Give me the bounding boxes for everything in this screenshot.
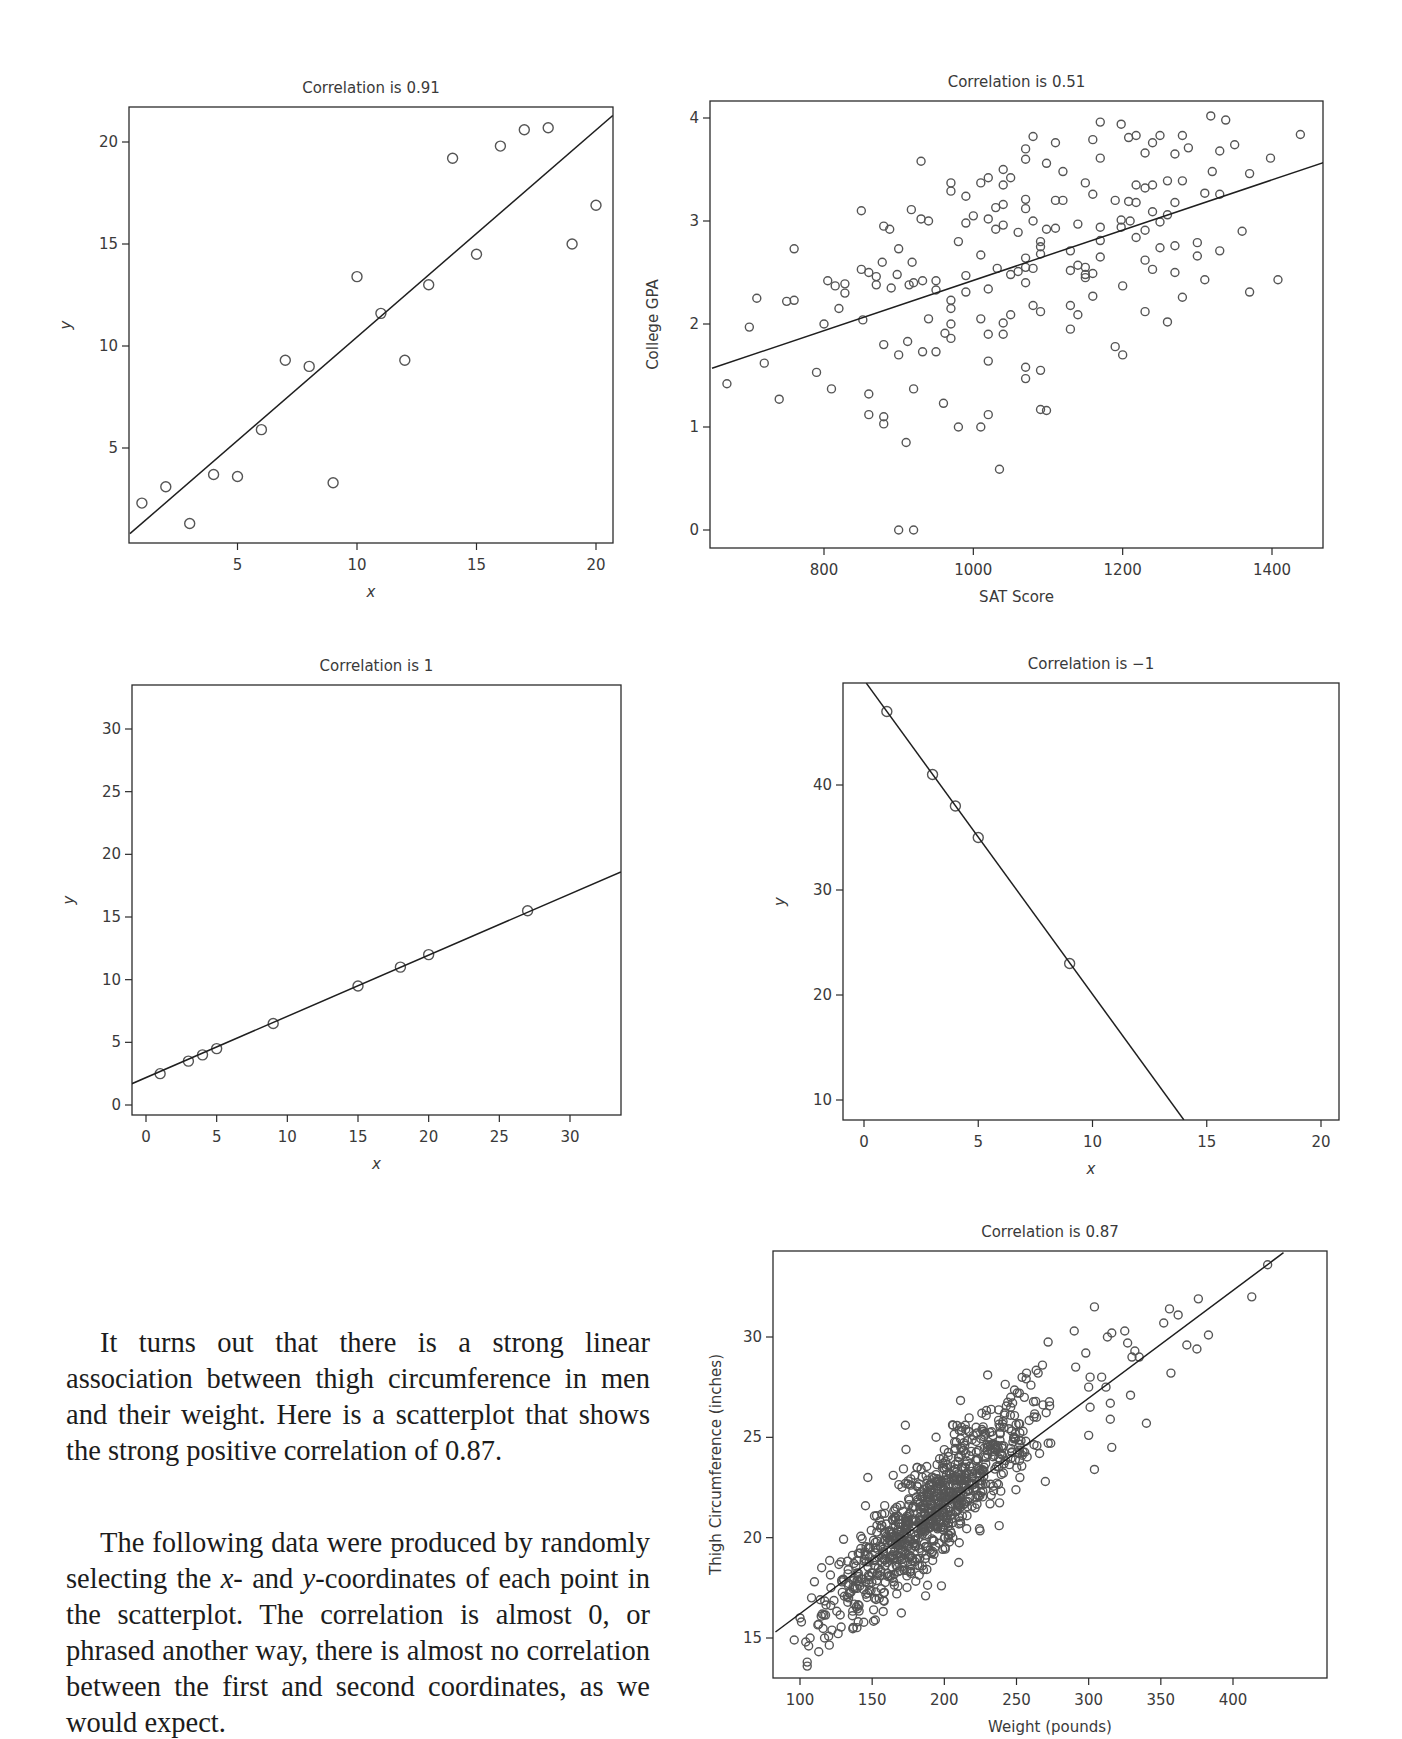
data-point — [870, 1606, 878, 1614]
x-tick-label: 25 — [490, 1128, 509, 1146]
data-point — [1001, 1380, 1009, 1388]
data-point — [1029, 217, 1037, 225]
data-point — [1086, 1373, 1094, 1381]
data-point — [1096, 154, 1104, 162]
data-point — [1066, 325, 1074, 333]
data-point — [1022, 279, 1030, 287]
data-point — [1090, 1465, 1098, 1473]
data-point — [233, 472, 243, 482]
chart-title: Correlation is 0.51 — [948, 73, 1086, 91]
data-point — [1163, 318, 1171, 326]
data-point — [1149, 208, 1157, 216]
data-point — [1029, 301, 1037, 309]
y-tick-label: 25 — [102, 783, 121, 801]
data-point — [901, 1421, 909, 1429]
data-point — [925, 315, 933, 323]
data-point — [932, 348, 940, 356]
data-point — [1082, 1349, 1090, 1357]
data-point — [947, 320, 955, 328]
data-point — [947, 187, 955, 195]
data-point — [1074, 261, 1082, 269]
y-tick-label: 5 — [111, 1033, 121, 1051]
x-tick-label: 20 — [586, 556, 605, 574]
data-point — [835, 305, 843, 313]
y-tick-label: 30 — [743, 1328, 762, 1346]
data-point — [1193, 1345, 1201, 1353]
data-point — [1014, 228, 1022, 236]
data-point — [917, 215, 925, 223]
data-point — [1086, 1403, 1094, 1411]
data-point — [1216, 147, 1224, 155]
data-point — [826, 1557, 834, 1565]
data-point — [984, 285, 992, 293]
data-point — [1141, 308, 1149, 316]
y-tick-label: 0 — [689, 521, 699, 539]
x-tick-label: 1000 — [954, 561, 992, 579]
data-point — [924, 1581, 932, 1589]
scatterplot-correlation-minus-1: Correlation is −10510152010203040xy — [771, 655, 1339, 1178]
data-point — [1111, 343, 1119, 351]
y-axis-label: y — [60, 894, 78, 905]
data-point — [1022, 155, 1030, 163]
x-tick-label: 1200 — [1104, 561, 1142, 579]
x-tick-label: 1400 — [1253, 561, 1291, 579]
data-point — [1141, 149, 1149, 157]
data-point — [1085, 1383, 1093, 1391]
data-point — [1132, 181, 1140, 189]
data-point — [841, 280, 849, 288]
data-point — [1014, 267, 1022, 275]
data-point — [872, 273, 880, 281]
data-point — [745, 323, 753, 331]
scatterplot-correlation-0.91: Correlation is 0.9151015205101520xy — [57, 79, 613, 601]
y-tick-label: 1 — [689, 418, 699, 436]
paragraph-text: - and — [233, 1563, 302, 1594]
x-tick-label: 250 — [1002, 1691, 1031, 1709]
data-point — [1022, 254, 1030, 262]
data-point — [947, 179, 955, 187]
data-point — [1066, 266, 1074, 274]
data-point — [872, 281, 880, 289]
y-tick-label: 25 — [743, 1428, 762, 1446]
data-point — [840, 1535, 848, 1543]
data-point — [962, 192, 970, 200]
data-point — [1246, 288, 1254, 296]
data-point — [902, 438, 910, 446]
data-point — [1089, 136, 1097, 144]
data-point — [472, 249, 482, 259]
y-tick-label: 30 — [813, 881, 832, 899]
data-point — [996, 1499, 1004, 1507]
data-point — [999, 166, 1007, 174]
data-point — [1207, 112, 1215, 120]
data-point — [1051, 224, 1059, 232]
data-point — [826, 1571, 834, 1579]
data-point — [837, 1623, 845, 1631]
data-point — [1201, 189, 1209, 197]
x-tick-label: 0 — [859, 1133, 869, 1151]
data-point — [1090, 1303, 1098, 1311]
x-tick-label: 30 — [560, 1128, 579, 1146]
data-point — [907, 206, 915, 214]
data-point — [790, 1636, 798, 1644]
data-point — [999, 181, 1007, 189]
data-point — [880, 341, 888, 349]
y-axis-label: y — [771, 896, 789, 907]
x-tick-label: 100 — [786, 1691, 815, 1709]
data-point — [1231, 141, 1239, 149]
data-point — [827, 385, 835, 393]
data-point — [1029, 133, 1037, 141]
y-tick-label: 20 — [102, 845, 121, 863]
x-tick-label: 0 — [141, 1128, 151, 1146]
y-tick-label: 10 — [99, 337, 118, 355]
data-point — [1216, 247, 1224, 255]
data-point — [1222, 116, 1230, 124]
data-point — [910, 385, 918, 393]
y-tick-label: 15 — [99, 235, 118, 253]
data-point — [947, 305, 955, 313]
data-point — [957, 1396, 965, 1404]
data-point — [903, 1583, 911, 1591]
data-point — [1248, 1293, 1256, 1301]
x-tick-label: 10 — [1083, 1133, 1102, 1151]
data-point — [1183, 1341, 1191, 1349]
data-point — [1027, 1381, 1035, 1389]
data-point — [887, 284, 895, 292]
